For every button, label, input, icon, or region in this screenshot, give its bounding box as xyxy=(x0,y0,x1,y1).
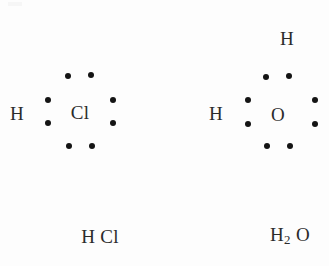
electron-dot xyxy=(287,143,293,149)
bonded-atom-left-h2o: H xyxy=(209,104,223,123)
electron-dot xyxy=(264,143,270,149)
formula-part: O xyxy=(291,224,310,245)
electron-dot xyxy=(312,97,318,103)
electron-dot xyxy=(263,74,269,80)
electron-dot xyxy=(312,121,318,127)
electron-dot xyxy=(245,121,251,127)
electron-dot xyxy=(245,97,251,103)
bonded-atom-top-h2o: H xyxy=(280,29,294,48)
formula-subscript: 2 xyxy=(284,232,291,247)
formula-part: H xyxy=(270,224,284,245)
central-atom-symbol-h2o: O xyxy=(271,105,285,124)
electron-dot xyxy=(286,73,292,79)
molecule-h2o: OHHH2 O xyxy=(0,0,329,266)
formula-caption-h2o: H2 O xyxy=(270,225,310,248)
lewis-structure-diagram: ClHH ClOHHH2 O xyxy=(0,0,329,266)
